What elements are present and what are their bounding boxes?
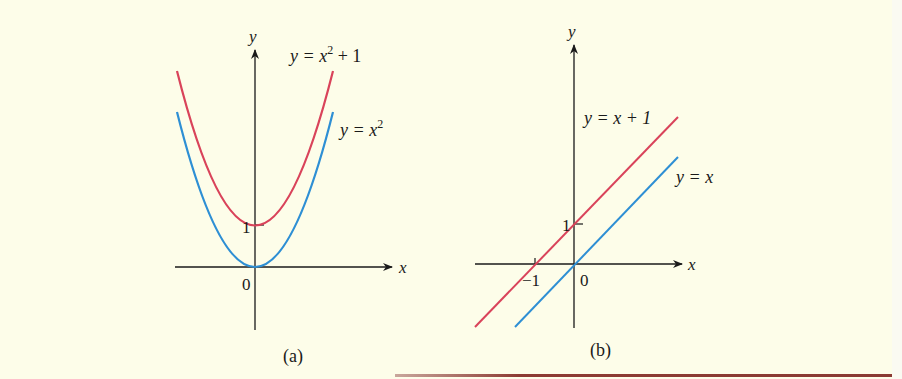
- label-x-squared-plus-one: y = x2 + 1: [288, 43, 361, 66]
- line-x-plus-one: [475, 117, 678, 327]
- panel-a-y-axis-label: y: [247, 27, 257, 46]
- panel-a: y x 0 1 y = x2 + 1 y = x2 (a): [175, 27, 407, 367]
- panel-b: y x 0 1 −1 y = x + 1 y = x (b): [475, 22, 713, 361]
- panel-b-tick-y1-label: 1: [562, 216, 571, 235]
- panel-a-tick-1-label: 1: [242, 218, 251, 237]
- bottom-rule-divider: [395, 374, 892, 377]
- panel-b-origin-label: 0: [580, 271, 589, 290]
- figure-svg: y x 0 1 y = x2 + 1 y = x2 (a): [0, 0, 902, 379]
- panel-b-x-axis-label: x: [687, 255, 696, 274]
- panel-b-caption: (b): [590, 340, 611, 361]
- panel-b-y-axis-label: y: [566, 22, 576, 41]
- panel-b-tick-xneg1-label: −1: [522, 271, 540, 290]
- panel-a-origin-label: 0: [242, 275, 251, 294]
- figure-canvas: y x 0 1 y = x2 + 1 y = x2 (a): [0, 0, 902, 379]
- panel-a-x-axis-label: x: [398, 258, 407, 277]
- label-x-plus-one: y = x + 1: [582, 108, 651, 128]
- label-x-squared: y = x2: [338, 117, 383, 140]
- label-x: y = x: [674, 167, 713, 187]
- panel-a-caption: (a): [283, 346, 303, 367]
- line-x: [515, 157, 678, 327]
